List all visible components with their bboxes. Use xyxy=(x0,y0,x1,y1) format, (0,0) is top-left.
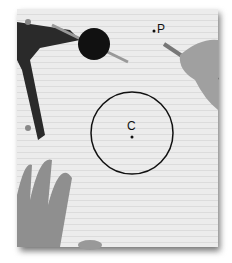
right-hand xyxy=(164,40,218,110)
center-dot xyxy=(131,136,134,139)
left-hand xyxy=(17,160,102,251)
point-p-label: P xyxy=(157,22,165,36)
compass-icon xyxy=(17,19,128,140)
scene-drawing xyxy=(0,0,232,263)
circle-c xyxy=(91,92,173,174)
center-c-label: C xyxy=(127,119,136,133)
point-p-dot xyxy=(153,30,156,33)
